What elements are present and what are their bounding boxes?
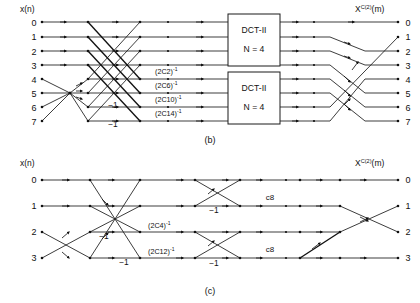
diagram-c-minus-one-2: −1	[209, 205, 219, 215]
diagram-c-output-index-3: 3	[405, 253, 410, 263]
diagram-b-output-index-7: 7	[405, 117, 410, 127]
diagram-b-post-block-lines	[280, 21, 330, 122]
output-label-sup: C(2)	[361, 4, 372, 10]
output-label-arg-c: (m)	[372, 158, 385, 168]
diagram-b-output-index-1: 1	[405, 32, 410, 42]
svg-text:XC(2)(m): XC(2)(m)	[355, 158, 384, 168]
diagram-b-input-index-5: 5	[31, 89, 36, 99]
diagram-c-input-index-2: 2	[31, 227, 36, 237]
diagram-b-input-index-1: 1	[31, 32, 36, 42]
dct-block-1-title: DCT-II	[242, 25, 267, 35]
dct-block-2-subtitle: N = 4	[244, 102, 265, 112]
diagram-b-dct-block-2: DCT-II N = 4	[228, 72, 280, 124]
diagram-b-input-index-3: 3	[31, 61, 36, 71]
diagram-c-output-index-0: 0	[405, 175, 410, 185]
caption-c: (c)	[205, 286, 216, 296]
diagram-b-stage1-straight	[42, 22, 88, 65]
figure-root: x(n) XC(2)(m) 0 1 2 3 4 5 6 7 0 1 2 3 4 …	[0, 0, 420, 303]
diagram-b-input-index-0: 0	[31, 18, 36, 28]
diagram-b-output-index-5: 5	[405, 89, 410, 99]
diagram-c-input-index-0: 0	[31, 175, 36, 185]
diagram-c-minus-one-1: −1	[119, 257, 129, 267]
diagram-b-output-index-6: 6	[405, 103, 410, 113]
diagram-c-input-label: x(n)	[20, 158, 35, 168]
diagram-b: x(n) XC(2)(m) 0 1 2 3 4 5 6 7 0 1 2 3 4 …	[20, 4, 411, 145]
diagram-c-output-shuffle	[340, 179, 399, 260]
dct-block-2-title: DCT-II	[242, 83, 267, 93]
caption-b: (b)	[205, 135, 216, 145]
diagram-b-coef-0: (2C2)-1	[155, 66, 178, 76]
diagram-b-coef-2: (2C10)-1	[155, 94, 182, 104]
diagram-c-butterfly-2	[195, 180, 240, 258]
diagram-b-pre-block-lines	[140, 21, 228, 122]
diagram-c-c8-label-0: c8	[266, 193, 275, 202]
diagram-b-stage1-reverse	[42, 79, 88, 121]
diagram-b-coef-3: (2C14)-1	[155, 108, 182, 118]
diagram-b-input-index-7: 7	[31, 117, 36, 127]
dct-block-1-subtitle: N = 4	[244, 44, 265, 54]
diagram-b-output-index-3: 3	[405, 61, 410, 71]
diagram-b-output-index-4: 4	[405, 75, 410, 85]
diagram-c-stage6	[300, 180, 340, 258]
diagram-c-minus-one-0: −1	[99, 231, 109, 241]
output-label-arg: (m)	[372, 4, 385, 14]
diagram-c: x(n) XC(2)(m) 0 1 2 3 0 1 2 3	[20, 158, 411, 296]
diagram-b-input-index-2: 2	[31, 47, 36, 57]
diagram-b-input-index-6: 6	[31, 103, 36, 113]
diagram-b-input-index-4: 4	[31, 75, 36, 85]
diagram-c-output-index-1: 1	[405, 201, 410, 211]
diagram-b-input-dots	[41, 21, 44, 123]
diagram-b-coef-1: (2C6)-1	[155, 80, 178, 90]
diagram-b-minus-one-0: −1	[108, 100, 118, 110]
diagram-b-minus-one-1: −1	[108, 119, 118, 129]
diagram-c-input-index-1: 1	[31, 201, 36, 211]
diagram-c-coef-0: (2C4)-1	[148, 220, 171, 230]
diagram-c-stage1	[42, 180, 90, 258]
diagram-b-output-index-0: 0	[405, 18, 410, 28]
svg-text:XC(2)(m): XC(2)(m)	[355, 4, 384, 14]
signal-flow-figure: x(n) XC(2)(m) 0 1 2 3 4 5 6 7 0 1 2 3 4 …	[0, 0, 420, 303]
diagram-b-dct-block-1: DCT-II N = 4	[228, 14, 280, 66]
diagram-c-output-label: XC(2)(m)	[355, 158, 384, 168]
output-label-sup-c: C(2)	[361, 158, 372, 164]
diagram-b-output-index-2: 2	[405, 47, 410, 57]
diagram-c-output-index-2: 2	[405, 227, 410, 237]
diagram-c-c8-label-1: c8	[266, 245, 275, 254]
diagram-c-coef-1: (2C12)-1	[148, 246, 175, 256]
diagram-b-input-label: x(n)	[20, 4, 35, 14]
diagram-b-output-shuffle	[330, 21, 399, 123]
diagram-c-input-index-3: 3	[31, 253, 36, 263]
diagram-c-minus-one-3: −1	[209, 258, 219, 268]
diagram-b-output-label: XC(2)(m)	[355, 4, 384, 14]
diagram-c-butterfly-1	[90, 180, 140, 258]
diagram-c-dots	[41, 179, 342, 260]
